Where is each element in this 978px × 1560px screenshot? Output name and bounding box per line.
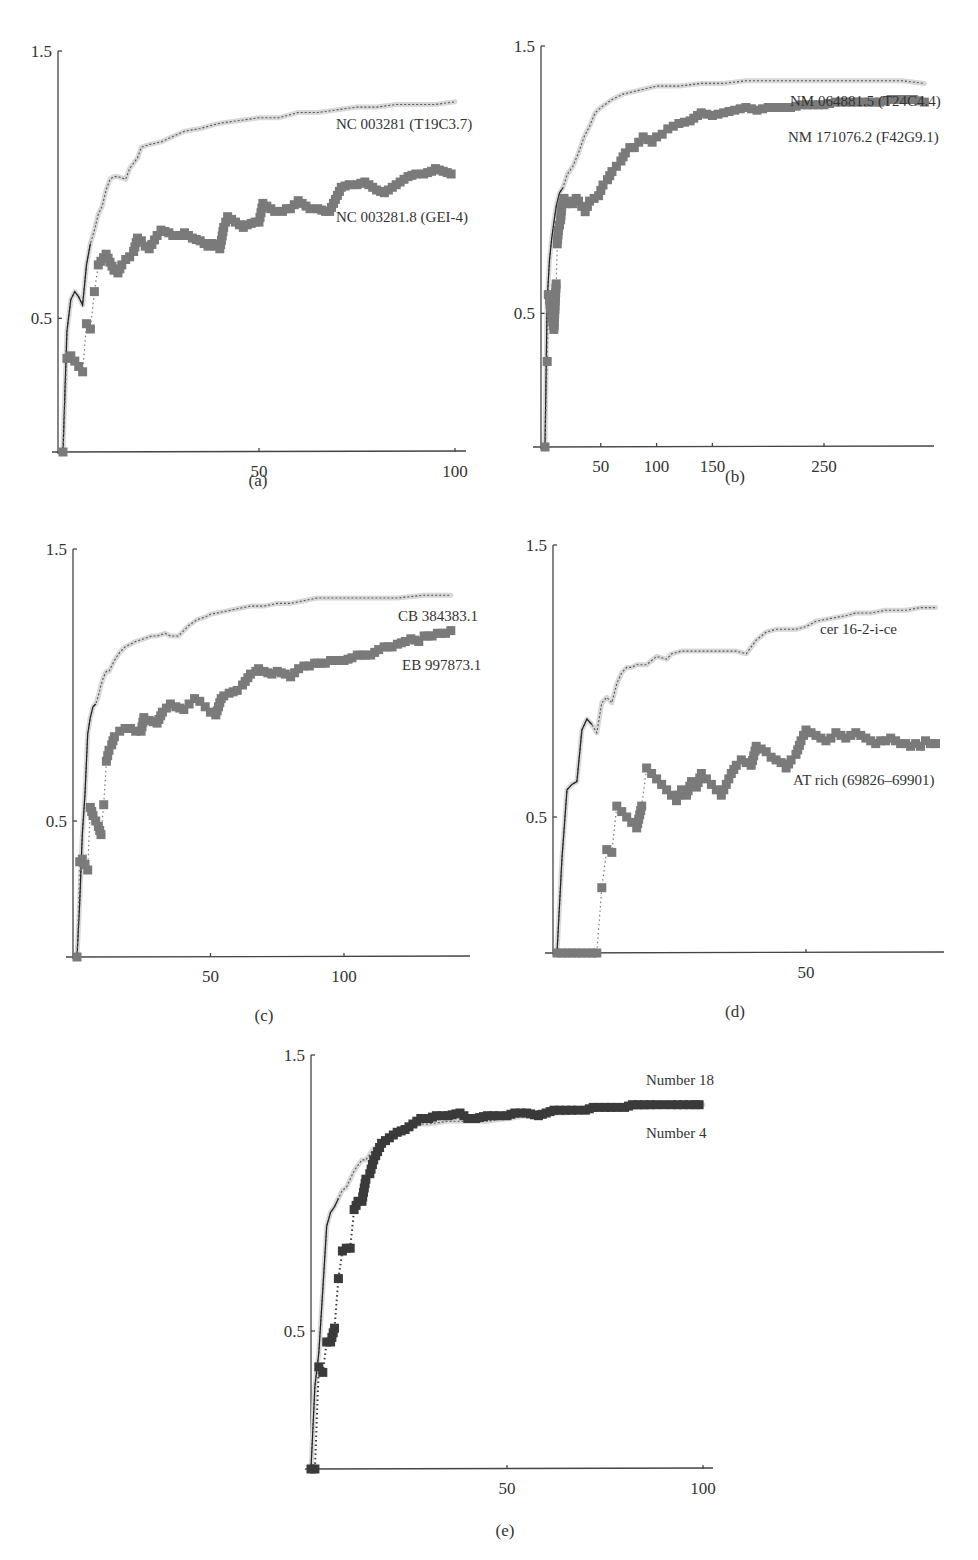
y-tick-label: 0.5 xyxy=(31,309,52,328)
figure-canvas: 0.51.550100NC 003281 (T19C3.7)NC 003281.… xyxy=(0,0,978,1560)
y-tick-label: 1.5 xyxy=(514,37,535,56)
series-annotation: NC 003281.8 (GEI-4) xyxy=(336,209,468,226)
x-tick-label: 50 xyxy=(592,457,609,476)
series-annotation: NC 003281 (T19C3.7) xyxy=(336,116,472,133)
panel-e: 0.51.550100Number 18Number 4(e) xyxy=(284,1046,716,1540)
panel-c: 0.51.550100CB 384383.1EB 997873.1(c) xyxy=(46,540,481,1025)
y-tick-label: 0.5 xyxy=(284,1322,305,1341)
x-axis xyxy=(66,956,470,957)
x-tick-label: 100 xyxy=(442,462,468,481)
y-tick-label: 0.5 xyxy=(526,808,547,827)
series-annotation: AT rich (69826–69901) xyxy=(793,772,934,789)
x-tick-label: 100 xyxy=(331,967,357,986)
series-annotation: EB 997873.1 xyxy=(402,657,481,673)
y-tick-label: 1.5 xyxy=(46,540,67,559)
y-tick-label: 1.5 xyxy=(284,1046,305,1065)
panel-label: (e) xyxy=(496,1521,515,1540)
series-annotation: CB 384383.1 xyxy=(398,608,478,624)
series-annotation: NM 064881.5 (T24C4.4) xyxy=(790,93,941,110)
x-tick-label: 150 xyxy=(700,457,726,476)
x-tick-label: 50 xyxy=(798,963,815,982)
x-axis xyxy=(533,446,934,447)
panel-b: 0.51.550100150250NM 064881.5 (T24C4.4)NM… xyxy=(514,37,941,486)
series-annotation: Number 18 xyxy=(646,1072,714,1088)
x-tick-label: 250 xyxy=(811,457,837,476)
x-tick-label: 50 xyxy=(499,1479,516,1498)
y-tick-label: 0.5 xyxy=(514,304,535,323)
series-dark xyxy=(73,626,456,961)
x-axis xyxy=(545,952,944,953)
x-axis xyxy=(305,1468,713,1469)
y-tick-label: 0.5 xyxy=(46,812,67,831)
series-dark xyxy=(541,95,929,452)
x-tick-label: 50 xyxy=(202,967,219,986)
panel-label: (c) xyxy=(255,1006,274,1025)
series-annotation: NM 171076.2 (F42G9.1) xyxy=(788,129,939,146)
series-dark xyxy=(59,164,456,456)
series-annotation: cer 16-2-i-ce xyxy=(820,621,897,637)
panel-a: 0.51.550100NC 003281 (T19C3.7)NC 003281.… xyxy=(31,42,473,490)
x-tick-label: 100 xyxy=(690,1479,716,1498)
panel-label: (b) xyxy=(725,467,745,486)
x-tick-label: 100 xyxy=(644,457,670,476)
y-tick-label: 1.5 xyxy=(526,536,547,555)
series-dark xyxy=(553,726,941,958)
panel-label: (d) xyxy=(725,1002,745,1021)
y-tick-label: 1.5 xyxy=(31,42,52,61)
panel-label: (a) xyxy=(249,471,268,490)
panel-d: 0.51.550cer 16-2-i-ceAT rich (69826–6990… xyxy=(526,536,944,1021)
series-annotation: Number 4 xyxy=(646,1125,707,1141)
